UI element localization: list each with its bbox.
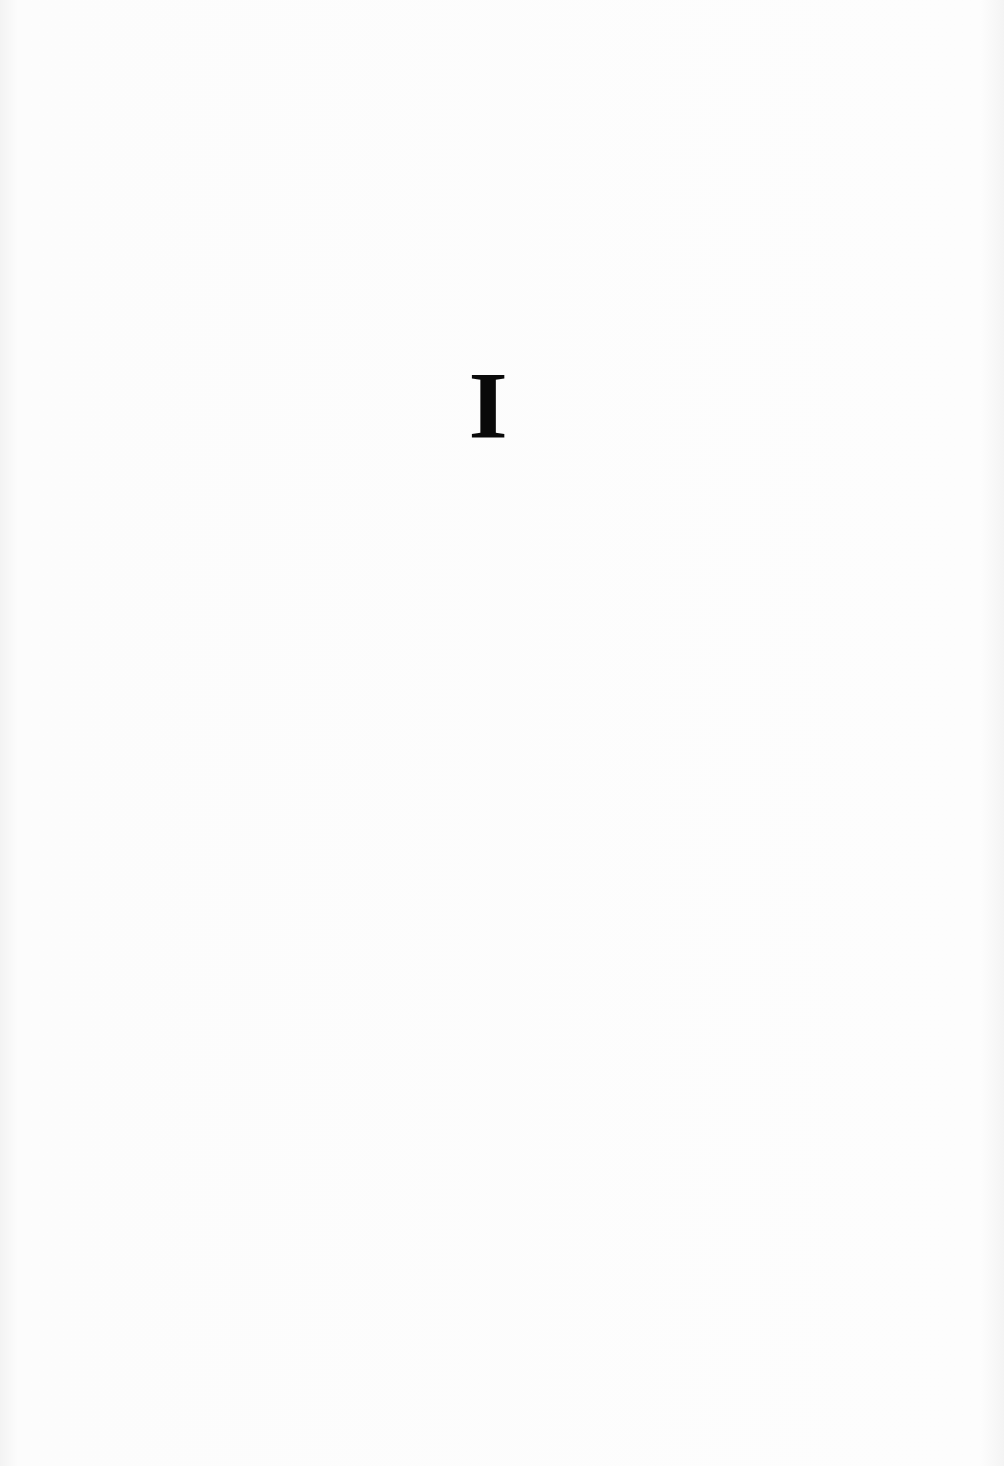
part-numeral: I xyxy=(465,358,511,454)
book-page: I xyxy=(0,0,1004,1466)
